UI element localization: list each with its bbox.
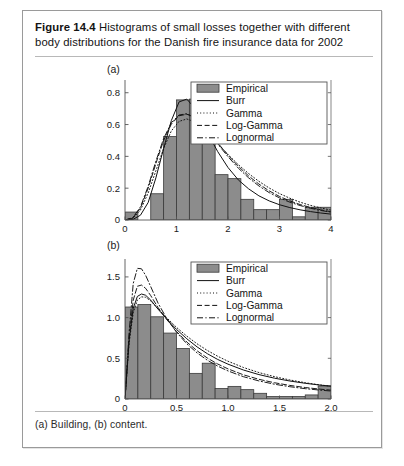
histogram-bar bbox=[177, 349, 190, 399]
y-tick-label: 0.5 bbox=[107, 353, 120, 364]
legend-label: Empirical bbox=[226, 83, 268, 94]
histogram-bar bbox=[241, 199, 254, 220]
legend-label: Lognormal bbox=[226, 132, 274, 143]
figure-footnote: (a) Building, (b) content. bbox=[35, 419, 148, 430]
histogram-bar bbox=[164, 136, 177, 220]
histogram-bar bbox=[267, 210, 280, 220]
legend-label: Empirical bbox=[226, 263, 268, 274]
figure-number: Figure 14.4 bbox=[35, 21, 96, 33]
histogram-bar bbox=[318, 386, 331, 399]
legend-label: Log-Gamma bbox=[226, 120, 283, 131]
panel-a-label: (a) bbox=[107, 63, 120, 75]
legend-label: Gamma bbox=[226, 108, 263, 119]
histogram-bar bbox=[241, 390, 254, 399]
x-tick-label: 4 bbox=[328, 223, 333, 234]
histogram-bar bbox=[215, 388, 228, 399]
histogram-bar bbox=[189, 373, 202, 399]
legend-label: Burr bbox=[226, 95, 246, 106]
histogram-bar bbox=[177, 100, 190, 220]
y-tick-label: 0 bbox=[115, 214, 120, 225]
y-tick-label: 0.6 bbox=[107, 119, 120, 130]
legend-label: Log-Gamma bbox=[226, 300, 283, 311]
panel-b-label: (b) bbox=[107, 239, 120, 251]
figure-container: Figure 14.4 Histograms of small losses t… bbox=[22, 10, 382, 448]
legend-label: Gamma bbox=[226, 288, 263, 299]
histogram-bar bbox=[254, 210, 267, 220]
histogram-bar bbox=[202, 363, 215, 399]
y-tick-label: 0.4 bbox=[107, 151, 120, 162]
y-tick-label: 1.5 bbox=[107, 271, 120, 282]
y-tick-label: 0.8 bbox=[107, 87, 120, 98]
legend-swatch-empirical bbox=[197, 264, 219, 272]
histogram-bar bbox=[151, 317, 164, 399]
y-tick-label: 0.2 bbox=[107, 183, 120, 194]
divider-top bbox=[35, 56, 373, 57]
x-tick-label: 3 bbox=[277, 223, 282, 234]
histogram-bar bbox=[138, 305, 151, 399]
panel-b-plot: 00.51.01.52.000.51.01.5EmpiricalBurrGamm… bbox=[23, 239, 381, 419]
panel-b: (b) 00.51.01.52.000.51.01.5EmpiricalBurr… bbox=[23, 239, 381, 419]
histogram-bar bbox=[292, 217, 305, 220]
divider-bottom bbox=[35, 411, 373, 412]
histogram-bar bbox=[228, 386, 241, 399]
x-tick-label: 1 bbox=[174, 223, 179, 234]
histogram-bar bbox=[151, 194, 164, 220]
x-tick-label: 0 bbox=[122, 223, 127, 234]
legend-swatch-empirical bbox=[197, 84, 219, 92]
histogram-bar bbox=[254, 393, 267, 399]
y-tick-label: 1.0 bbox=[107, 312, 120, 323]
legend-label: Lognormal bbox=[226, 312, 274, 323]
x-tick-label: 2 bbox=[225, 223, 230, 234]
y-tick-label: 0 bbox=[115, 393, 120, 404]
histogram-bar bbox=[215, 175, 228, 220]
histogram-bar bbox=[228, 179, 241, 220]
histogram-bar bbox=[164, 333, 177, 399]
histogram-bar bbox=[305, 395, 318, 399]
figure-caption-top: Figure 14.4 Histograms of small losses t… bbox=[35, 20, 373, 49]
panel-a: (a) 0123400.20.40.60.8EmpiricalBurrGamma… bbox=[23, 63, 381, 241]
panel-a-plot: 0123400.20.40.60.8EmpiricalBurrGammaLog-… bbox=[23, 63, 381, 241]
legend-label: Burr bbox=[226, 275, 246, 286]
